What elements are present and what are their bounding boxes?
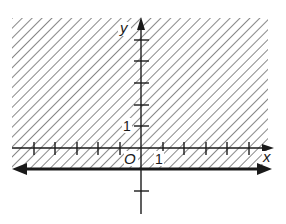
inequality-graph: y x 1 O 1 <box>0 0 286 224</box>
x-axis-label: x <box>262 148 271 165</box>
x-unit-label: 1 <box>155 151 163 167</box>
y-unit-label: 1 <box>123 118 131 134</box>
origin-label: O <box>124 150 136 167</box>
